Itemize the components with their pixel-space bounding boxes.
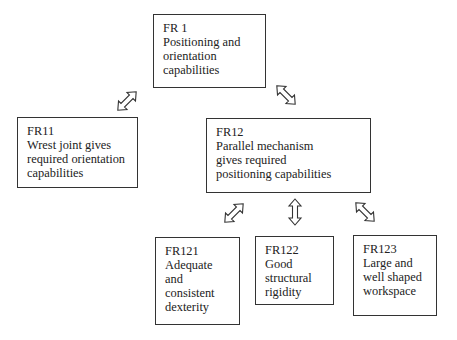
node-text: rigidity (265, 285, 324, 299)
node-text: Good (265, 257, 324, 271)
node-text: gives required (216, 153, 361, 167)
node-text: orientation (163, 49, 256, 63)
node-text: Wrest joint gives (27, 138, 128, 152)
node-text: and (165, 272, 230, 286)
node-text: Positioning and (163, 35, 256, 49)
node-label: FR122 (265, 243, 324, 257)
arrow-fr1-fr11 (114, 88, 141, 115)
node-label: FR11 (27, 124, 128, 138)
node-label: FR121 (165, 244, 230, 258)
arrow-fr12-fr123 (352, 199, 379, 226)
node-label: FR 1 (163, 21, 256, 35)
node-fr11: FR11 Wrest joint gives required orientat… (17, 117, 138, 188)
node-fr123: FR123 Large and well shaped workspace (353, 235, 437, 316)
node-fr122: FR122 Good structural rigidity (255, 236, 334, 305)
node-text: structural (265, 271, 324, 285)
node-text: required orientation (27, 152, 128, 166)
node-label: FR12 (216, 125, 361, 139)
node-text: capabilities (163, 63, 256, 77)
node-text: Parallel mechanism (216, 139, 361, 153)
arrow-fr12-fr121 (221, 200, 248, 227)
node-label: FR123 (363, 242, 427, 256)
node-text: consistent (165, 286, 230, 300)
node-text: Large and (363, 256, 427, 270)
node-text: dexterity (165, 300, 230, 314)
arrow-fr12-fr122 (289, 199, 301, 225)
node-fr121: FR121 Adequate and consistent dexterity (155, 237, 240, 325)
node-text: capabilities (27, 166, 128, 180)
node-text: Adequate (165, 258, 230, 272)
node-fr1: FR 1 Positioning and orientation capabil… (153, 14, 266, 88)
node-text: positioning capabilities (216, 167, 361, 181)
node-text: workspace (363, 284, 427, 298)
arrow-fr1-fr12 (273, 82, 300, 109)
node-fr12: FR12 Parallel mechanism gives required p… (206, 118, 371, 193)
node-text: well shaped (363, 270, 427, 284)
